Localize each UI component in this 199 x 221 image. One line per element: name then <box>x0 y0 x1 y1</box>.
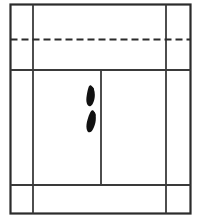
court-svg-canvas <box>0 0 199 221</box>
figure-background <box>0 0 199 221</box>
badminton-court-diagram <box>0 0 199 221</box>
